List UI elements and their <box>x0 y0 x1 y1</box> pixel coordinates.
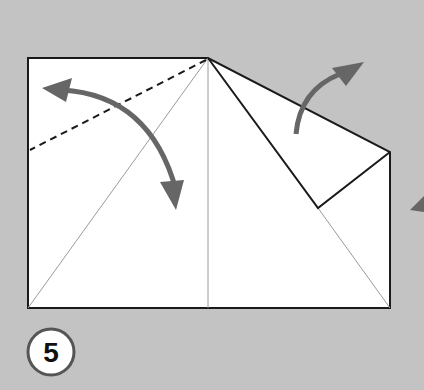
step-number-badge: 5 <box>28 329 74 375</box>
paper-sheet <box>28 58 390 308</box>
turn-over-arrowhead-icon <box>410 196 424 212</box>
origami-diagram: 5 <box>0 0 424 390</box>
step-number: 5 <box>43 337 59 368</box>
